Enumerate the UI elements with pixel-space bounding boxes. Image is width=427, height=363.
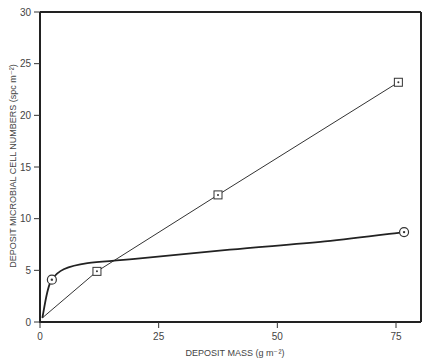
y-tick-label: 0 [25,317,31,328]
x-axis-ticks: 0255075 [37,322,402,342]
y-tick-label: 25 [20,58,32,69]
y-tick-label: 5 [25,265,31,276]
x-tick-label: 25 [153,331,165,342]
y-tick-label: 15 [20,162,32,173]
circle-marker-dot [403,231,405,233]
square-marker-dot [217,194,219,196]
series-layer [42,78,408,318]
y-axis-label: DEPOSIT MICROBIAL CELL NUMBERS (spc m⁻²) [8,64,18,268]
square-marker-dot [397,81,399,83]
circle-marker-dot [51,278,53,280]
y-axis-ticks: 051015202530 [20,7,40,328]
x-axis-label: DEPOSIT MASS (g m⁻²) [186,348,285,358]
y-tick-label: 30 [20,7,32,18]
x-tick-label: 75 [390,331,402,342]
x-tick-label: 50 [272,331,284,342]
y-tick-label: 20 [20,110,32,121]
chart: 0255075 051015202530 DEPOSIT MASS (g m⁻²… [0,0,427,363]
x-tick-label: 0 [37,331,43,342]
square-series-line [42,82,398,318]
square-marker-dot [96,270,98,272]
y-tick-label: 10 [20,213,32,224]
